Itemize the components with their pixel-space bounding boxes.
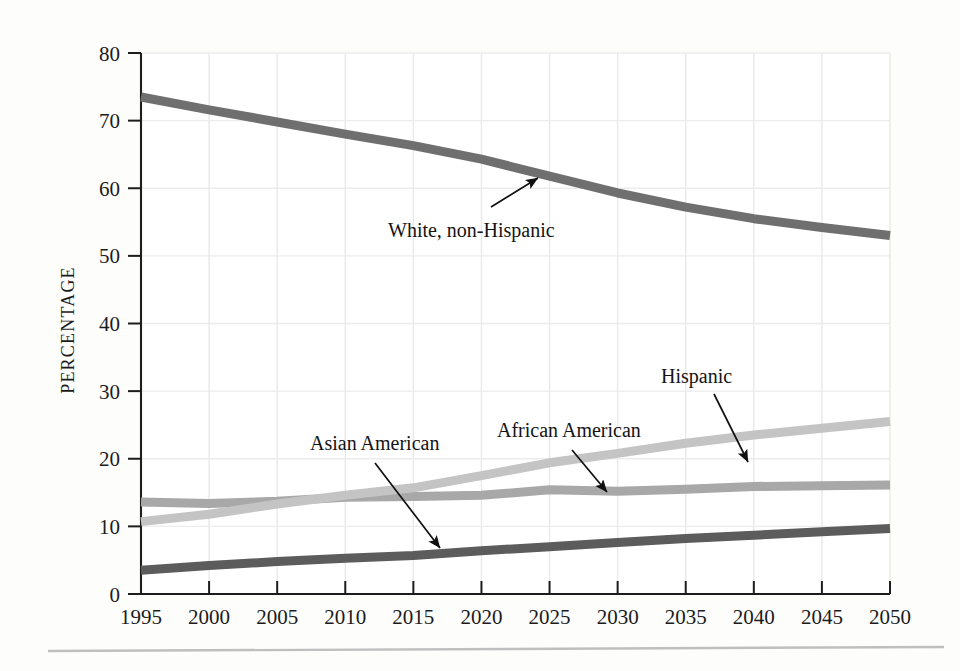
x-axis-tick-labels: 1995200020052010201520202025203020352040… <box>120 605 911 629</box>
tick-label-x: 2010 <box>324 605 366 629</box>
y-axis-title: PERCENTAGE <box>58 266 78 394</box>
tick-label-y: 0 <box>110 583 121 607</box>
tick-label-x: 2045 <box>801 605 843 629</box>
tick-label-x: 2040 <box>733 605 775 629</box>
series-label-african-american: African American <box>497 419 641 441</box>
tick-label-y: 10 <box>99 515 120 539</box>
tick-label-y: 50 <box>99 244 120 268</box>
tick-label-x: 2035 <box>665 605 707 629</box>
tick-label-x: 1995 <box>120 605 162 629</box>
tick-label-y: 70 <box>99 109 120 133</box>
tick-label-y: 40 <box>99 312 120 336</box>
tick-label-x: 2005 <box>256 605 298 629</box>
tick-label-y: 20 <box>99 447 120 471</box>
y-axis-ticks <box>128 53 141 594</box>
tick-label-y: 60 <box>99 177 120 201</box>
tick-label-y: 80 <box>99 42 120 66</box>
tick-label-x: 2025 <box>529 605 571 629</box>
series-label-white-non-hispanic: White, non-Hispanic <box>388 219 555 242</box>
tick-label-x: 2050 <box>869 605 911 629</box>
footer-rule <box>48 647 944 651</box>
tick-label-x: 2000 <box>188 605 230 629</box>
tick-label-x: 2030 <box>597 605 639 629</box>
tick-label-y: 30 <box>99 380 120 404</box>
series-label-hispanic: Hispanic <box>661 365 732 388</box>
tick-label-x: 2015 <box>392 605 434 629</box>
y-axis-tick-labels: 01020304050607080 <box>99 42 120 607</box>
line-chart: 01020304050607080 1995200020052010201520… <box>0 0 960 671</box>
tick-label-x: 2020 <box>460 605 502 629</box>
series-label-asian-american: Asian American <box>310 432 439 454</box>
figure-container: 01020304050607080 1995200020052010201520… <box>0 0 960 671</box>
